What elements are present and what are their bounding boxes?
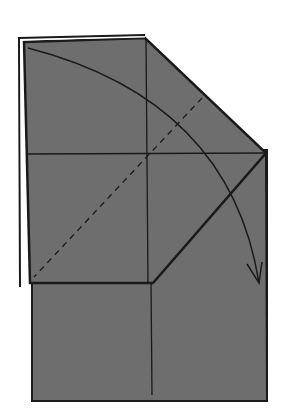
right-edge (266, 153, 267, 401)
origami-diagram (0, 0, 291, 414)
